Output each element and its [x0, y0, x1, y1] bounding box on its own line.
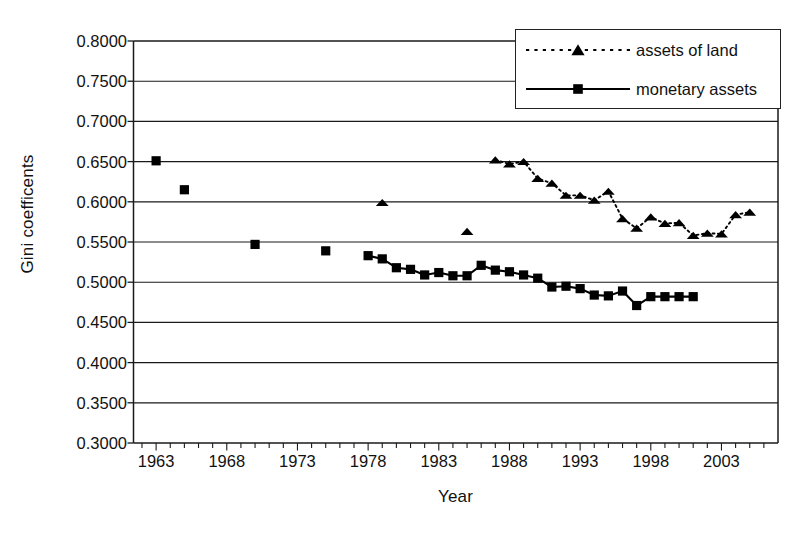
- data-point-square: [519, 270, 528, 279]
- data-point-square: [462, 271, 471, 280]
- data-point-triangle: [715, 230, 728, 237]
- data-point-square: [689, 292, 698, 301]
- chart-legend: assets of land monetary assets: [515, 29, 781, 109]
- data-point-square: [646, 292, 655, 301]
- data-point-triangle: [489, 156, 502, 163]
- series-monetary-assets: [152, 156, 698, 310]
- data-point-triangle: [644, 213, 657, 220]
- data-point-square: [674, 292, 683, 301]
- legend-item-assets-of-land[interactable]: assets of land: [516, 30, 780, 69]
- data-point-square: [180, 185, 189, 194]
- data-point-triangle: [545, 180, 558, 187]
- data-point-square: [632, 301, 641, 310]
- series-line: [368, 256, 693, 306]
- series-line: [495, 160, 749, 236]
- legend-label: monetary assets: [636, 79, 757, 98]
- data-point-square: [448, 271, 457, 280]
- legend-symbol-square-solid: [524, 82, 632, 96]
- data-point-square: [660, 292, 669, 301]
- data-point-square: [590, 290, 599, 299]
- data-point-square: [321, 246, 330, 255]
- data-point-square: [152, 156, 161, 165]
- data-point-square: [406, 265, 415, 274]
- data-point-square: [561, 282, 570, 291]
- series-assets-of-land: [376, 156, 756, 239]
- data-point-triangle: [743, 209, 756, 216]
- data-point-square: [576, 284, 585, 293]
- data-point-triangle: [602, 188, 615, 195]
- data-point-triangle: [376, 199, 389, 206]
- data-point-triangle: [461, 228, 474, 235]
- data-point-square: [604, 291, 613, 300]
- data-point-triangle: [616, 215, 629, 222]
- legend-item-monetary-assets[interactable]: monetary assets: [516, 69, 780, 108]
- gini-coefficients-chart: Gini coefficents Year 0.80000.75000.7000…: [0, 0, 804, 534]
- data-point-square: [378, 254, 387, 263]
- data-point-square: [420, 270, 429, 279]
- data-point-triangle: [531, 175, 544, 182]
- data-point-square: [533, 274, 542, 283]
- legend-symbol-triangle-dotted: [524, 43, 632, 57]
- data-point-square: [250, 240, 259, 249]
- data-point-square: [477, 261, 486, 270]
- data-point-square: [505, 267, 514, 276]
- data-point-square: [364, 251, 373, 260]
- data-point-square: [618, 286, 627, 295]
- data-point-square: [392, 263, 401, 272]
- legend-label: assets of land: [636, 40, 738, 59]
- data-point-square: [491, 266, 500, 275]
- data-point-square: [547, 282, 556, 291]
- data-point-square: [434, 268, 443, 277]
